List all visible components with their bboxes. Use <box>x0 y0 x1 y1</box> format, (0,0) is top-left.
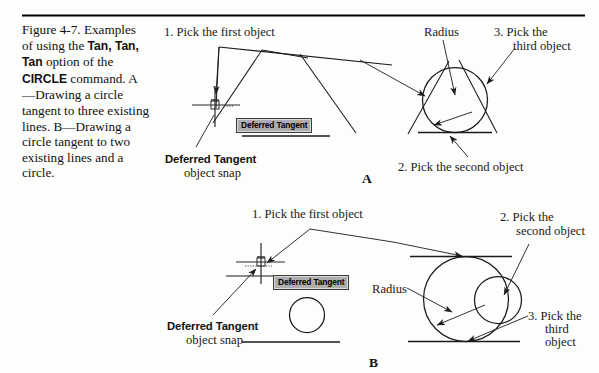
panel-a-label-pick-third-line1: 3. Pick the <box>494 25 548 40</box>
panel-b-snap-label-sub: object snap <box>186 333 243 348</box>
panel-a-deferred-tangent-tooltip: Deferred Tangent <box>236 118 312 133</box>
panel-a-leader-pick-second <box>450 136 468 157</box>
caption-line-2: option of the <box>43 54 114 69</box>
panel-b-leader-pick-second <box>504 244 529 295</box>
panel-a-leader-to-circle <box>360 60 425 96</box>
panel-a-snap-label-bold: Deferred Tangent <box>165 153 256 166</box>
panel-b-leader-pick-third <box>468 316 528 341</box>
panel-b-label-pick-third-line3: object <box>545 335 576 350</box>
panel-b-small-circle <box>290 298 325 333</box>
panel-a-radius-arrows <box>434 40 472 125</box>
panel-a-label-pick-first: 1. Pick the first object <box>164 25 275 40</box>
panel-a-label-radius: Radius <box>424 25 459 40</box>
panel-b-snap-label-bold: Deferred Tangent <box>167 320 258 333</box>
panel-b-label-radius: Radius <box>372 282 407 297</box>
panel-a-tangent-circle <box>423 68 488 133</box>
panel-a-label-pick-second: 2. Pick the second object <box>398 160 524 175</box>
panel-a-leader-snap <box>196 115 214 147</box>
panel-a-label-pick-third-line2: third object <box>513 39 571 54</box>
panel-b-label-pick-second-line1: 2. Pick the <box>500 210 554 225</box>
panel-b-deferred-tangent-tooltip: Deferred Tangent <box>273 275 349 290</box>
caption-line-3: command. A—Drawing a circle tangent to t… <box>22 71 149 181</box>
panel-b-radius-arrows <box>407 288 485 325</box>
panel-a-snap-label-sub: object snap <box>184 166 241 181</box>
panel-b-label-pick-first: 1. Pick the first object <box>252 207 363 222</box>
panel-b-leader-pick-first <box>267 229 393 263</box>
panel-a-circle-group <box>408 60 497 134</box>
figure-caption: Figure 4-7. Examples of using the Tan, T… <box>22 22 150 181</box>
panel-b-letter: B <box>369 355 378 371</box>
panel-b-leader-to-circle <box>393 242 462 256</box>
caption-circle-command: CIRCLE <box>22 72 67 86</box>
panel-b-label-pick-second-line2: second object <box>516 224 585 239</box>
panel-b-big-circle <box>424 257 509 342</box>
panel-a-leader-pick-third <box>487 48 515 84</box>
panel-b-circle-group <box>408 257 522 342</box>
panel-a-letter: A <box>362 171 372 187</box>
figure-page: Figure 4-7. Examples of using the Tan, T… <box>0 0 599 373</box>
panel-b-inner-circle <box>475 277 522 324</box>
